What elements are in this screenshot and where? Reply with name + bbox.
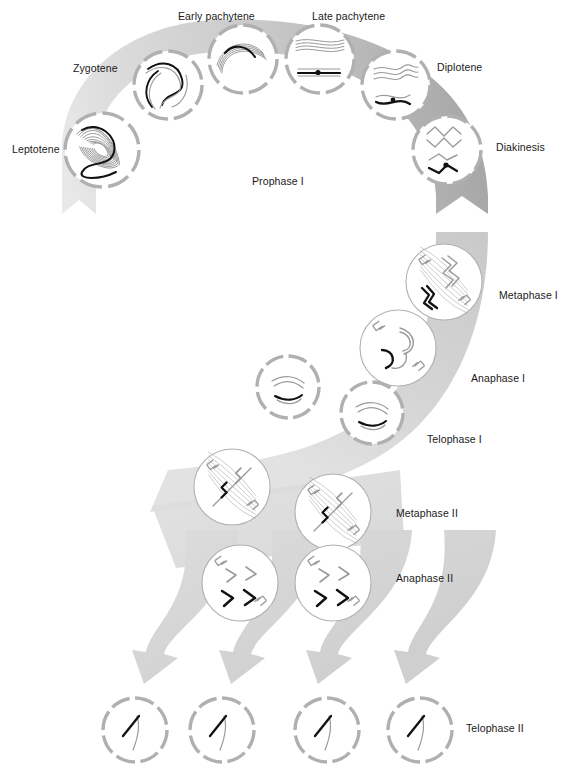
cell-metaphase-2-b bbox=[295, 474, 371, 550]
label-early-pachytene: Early pachytene bbox=[178, 11, 255, 22]
label-telophase-2: Telophase II bbox=[466, 723, 524, 734]
nuclear-envelope bbox=[295, 545, 371, 621]
label-leptotene: Leptotene bbox=[12, 144, 60, 155]
label-late-pachytene: Late pachytene bbox=[312, 11, 385, 22]
label-metaphase-1: Metaphase I bbox=[499, 290, 558, 301]
cell-early-pachytene bbox=[209, 25, 277, 93]
cell-metaphase-1 bbox=[406, 244, 482, 320]
label-telophase-1: Telophase I bbox=[427, 434, 482, 445]
cell-telophase-2-c bbox=[295, 698, 359, 762]
nuclear-envelope bbox=[134, 51, 202, 119]
cell-zygotene bbox=[134, 51, 202, 119]
nuclear-envelope bbox=[257, 356, 319, 418]
label-anaphase-2: Anaphase II bbox=[396, 573, 453, 584]
label-diplotene: Diplotene bbox=[437, 62, 482, 73]
nuclear-envelope bbox=[360, 310, 436, 386]
cell-diakinesis bbox=[413, 116, 481, 184]
nuclear-envelope bbox=[413, 116, 481, 184]
nuclear-envelope bbox=[406, 244, 482, 320]
cell-telophase-2-d bbox=[388, 698, 452, 762]
cell-anaphase-2-b bbox=[295, 545, 371, 621]
cell-metaphase-2-a bbox=[194, 449, 270, 525]
nuclear-envelope bbox=[388, 698, 452, 762]
label-prophase-1: Prophase I bbox=[252, 176, 304, 187]
cell-diplotene bbox=[362, 51, 430, 119]
meiosis-diagram: Early pachyteneLate pachyteneZygoteneDip… bbox=[0, 0, 578, 782]
cell-late-pachytene bbox=[286, 25, 354, 93]
nuclear-envelope bbox=[190, 698, 254, 762]
label-anaphase-1: Anaphase I bbox=[471, 373, 525, 384]
nuclear-envelope bbox=[286, 25, 354, 93]
label-metaphase-2: Metaphase II bbox=[396, 508, 458, 519]
nuclear-envelope bbox=[341, 382, 403, 444]
chiasma bbox=[391, 98, 396, 103]
centromere bbox=[315, 70, 320, 75]
cell-telophase-2-b bbox=[190, 698, 254, 762]
chiasma bbox=[443, 162, 448, 167]
cell-leptotene bbox=[65, 113, 139, 187]
label-diakinesis: Diakinesis bbox=[496, 142, 545, 153]
meiosis-artwork bbox=[0, 0, 578, 782]
cell-telophase-1-b bbox=[341, 382, 403, 444]
nuclear-envelope bbox=[103, 698, 167, 762]
cell-telophase-1-a bbox=[257, 356, 319, 418]
nuclear-envelope bbox=[295, 698, 359, 762]
nuclear-envelope bbox=[65, 113, 139, 187]
cell-anaphase-2-a bbox=[202, 545, 278, 621]
cell-anaphase-1 bbox=[360, 310, 436, 386]
label-zygotene: Zygotene bbox=[73, 63, 118, 74]
cell-telophase-2-a bbox=[103, 698, 167, 762]
nuclear-envelope bbox=[202, 545, 278, 621]
nuclear-envelope bbox=[362, 51, 430, 119]
